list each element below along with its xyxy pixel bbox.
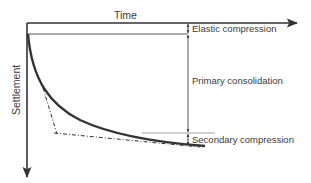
primary-consolidation-label: Primary consolidation bbox=[192, 75, 283, 86]
settlement-axis-label: Settlement bbox=[10, 65, 22, 115]
settlement-curve bbox=[28, 34, 205, 146]
settlement-time-diagram: Time Settlement Elastic compression Prim… bbox=[0, 0, 311, 183]
elastic-compression-label: Elastic compression bbox=[192, 23, 276, 34]
secondary-compression-label: Secondary compression bbox=[192, 134, 294, 145]
time-axis-label: Time bbox=[114, 9, 137, 21]
